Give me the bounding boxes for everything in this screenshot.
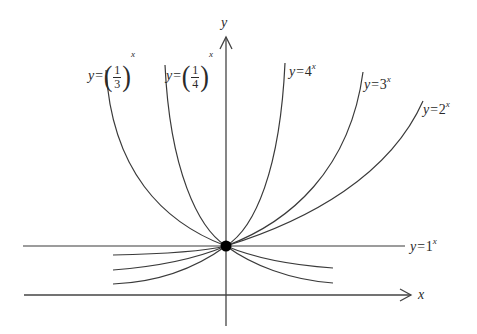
curve-y-4-pow-x xyxy=(113,63,285,255)
common-point-0-1 xyxy=(221,241,232,252)
curve-y-3-pow-x xyxy=(113,72,363,270)
curve-y-one-quarter-pow-x xyxy=(165,65,333,283)
label-y-one-quarter-pow-x: y=(14)x xyxy=(166,64,213,90)
label-y-1-pow-x: y=1x xyxy=(410,240,437,254)
exponential-graph xyxy=(0,0,477,334)
label-y-4-pow-x: y=4x xyxy=(289,65,316,79)
y-axis xyxy=(220,37,232,326)
right-paren: ) xyxy=(122,62,131,92)
label-y-2-pow-x: y=2x xyxy=(423,103,450,117)
curve-y-one-third-pow-x xyxy=(106,70,333,268)
label-y-3-pow-x: y=3x xyxy=(364,78,391,92)
curve-y-2-pow-x xyxy=(113,101,423,284)
left-paren: ( xyxy=(104,62,113,92)
y-axis-label: y xyxy=(221,16,227,30)
x-axis xyxy=(24,289,411,301)
x-axis-label: x xyxy=(418,288,424,302)
right-paren: ) xyxy=(200,62,209,92)
left-paren: ( xyxy=(182,62,191,92)
label-y-one-third-pow-x: y=(13)x xyxy=(88,64,135,90)
